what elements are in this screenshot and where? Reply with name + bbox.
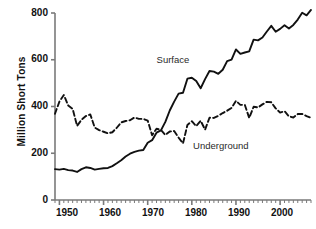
y-tick-label-800: 800 xyxy=(18,7,48,18)
x-tick-label-1980: 1980 xyxy=(176,207,216,218)
y-tick-label-0: 0 xyxy=(18,194,48,205)
x-tick-label-1970: 1970 xyxy=(133,207,173,218)
axes xyxy=(51,13,311,205)
series-lines xyxy=(55,10,311,172)
x-tick-label-2000: 2000 xyxy=(262,207,302,218)
x-tick-label-1950: 1950 xyxy=(47,207,87,218)
x-tick-label-1960: 1960 xyxy=(90,207,130,218)
y-tick-label-200: 200 xyxy=(18,147,48,158)
y-tick-label-400: 400 xyxy=(18,100,48,111)
series-annotation-underground: Underground xyxy=(193,140,248,151)
y-tick-label-600: 600 xyxy=(18,53,48,64)
series-annotation-surface: Surface xyxy=(157,54,190,65)
coal-production-chart: Million Short Tons 800 600 400 200 0 195… xyxy=(0,0,316,229)
x-tick-label-1990: 1990 xyxy=(219,207,259,218)
